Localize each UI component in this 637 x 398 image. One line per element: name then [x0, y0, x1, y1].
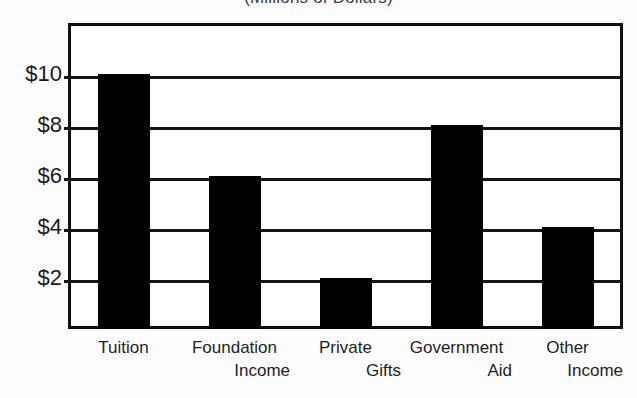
x-axis-label-line-2: Aid	[401, 359, 512, 382]
gridline	[71, 127, 620, 130]
y-axis-tick-labels: $2$4$6$8$10	[0, 23, 62, 329]
y-axis-tick-mark	[64, 229, 71, 232]
x-axis-category-label: OtherIncome	[512, 336, 623, 382]
x-axis-category-label: FoundationIncome	[179, 336, 290, 382]
y-axis-tick-mark	[64, 280, 71, 283]
x-axis-category-label: GovernmentAid	[401, 336, 512, 382]
x-axis-category-label: Tuition	[68, 336, 179, 359]
gridline	[71, 280, 620, 283]
y-axis-tick-mark	[64, 76, 71, 79]
gridline	[71, 229, 620, 232]
x-axis-label-line-2: Income	[512, 359, 623, 382]
y-axis-tick-label: $10	[4, 61, 62, 87]
x-axis-label-line-2: Gifts	[290, 359, 401, 382]
x-axis-label-line-1: Private	[319, 338, 372, 357]
y-axis-tick-label: $6	[4, 163, 62, 189]
y-axis-tick-label: $4	[4, 214, 62, 240]
y-axis-tick-mark	[64, 127, 71, 130]
x-axis-label-line-2: Income	[179, 359, 290, 382]
y-axis-tick-mark	[64, 178, 71, 181]
x-axis-label-line-1: Tuition	[98, 338, 148, 357]
gridline	[71, 178, 620, 181]
x-axis-category-labels: TuitionFoundationIncomePrivateGiftsGover…	[68, 336, 623, 396]
gridline	[71, 76, 620, 79]
x-axis-category-label: PrivateGifts	[290, 336, 401, 382]
x-axis-label-line-1: Government	[410, 338, 504, 357]
chart-title: (Millions of Dollars)	[0, 0, 637, 8]
y-axis-tick-label: $2	[4, 265, 62, 291]
x-axis-label-line-1: Other	[546, 338, 589, 357]
y-axis-tick-label: $8	[4, 112, 62, 138]
x-axis-label-line-1: Foundation	[192, 338, 277, 357]
chart-page: (Millions of Dollars) $2$4$6$8$10 Tuitio…	[0, 0, 637, 398]
plot-area	[68, 23, 623, 329]
